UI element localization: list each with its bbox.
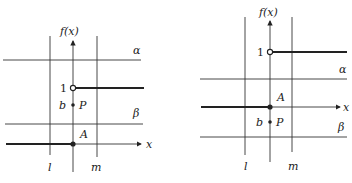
p-label: P bbox=[275, 116, 284, 129]
point-a-dot bbox=[70, 141, 75, 146]
b-label: b bbox=[256, 116, 263, 129]
x-axis-label: x bbox=[146, 138, 153, 151]
y-axis-label: f(x) bbox=[59, 25, 79, 38]
m-label: m bbox=[288, 160, 298, 173]
open-circle-point bbox=[267, 49, 272, 54]
one-label: 1 bbox=[257, 46, 264, 59]
point-p-dot bbox=[268, 120, 272, 124]
b-label: b bbox=[59, 99, 66, 112]
a-label: A bbox=[79, 128, 88, 141]
y-axis-label: f(x) bbox=[258, 6, 278, 19]
open-circle-point bbox=[70, 85, 75, 90]
x-axis-label: x bbox=[343, 101, 350, 114]
one-label: 1 bbox=[60, 82, 67, 95]
diagram-canvas: f(x) x α β l m 1 b P A f(x) x α β l m 1 … bbox=[0, 0, 352, 183]
beta-label: β bbox=[337, 121, 344, 134]
alpha-label: α bbox=[133, 44, 141, 57]
l-label: l bbox=[244, 160, 248, 173]
p-label: P bbox=[78, 99, 87, 112]
left-diagram: f(x) x α β l m 1 b P A bbox=[3, 25, 153, 174]
m-label: m bbox=[91, 161, 101, 174]
a-label: A bbox=[276, 91, 285, 104]
beta-label: β bbox=[132, 107, 139, 120]
point-a-dot bbox=[267, 104, 272, 109]
point-p-dot bbox=[71, 103, 75, 107]
right-diagram: f(x) x α β l m 1 b P A bbox=[200, 6, 350, 173]
l-label: l bbox=[48, 161, 52, 174]
alpha-label: α bbox=[339, 63, 347, 76]
